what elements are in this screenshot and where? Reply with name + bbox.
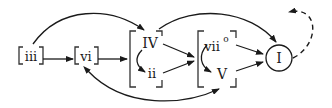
edge-iii-to-IV <box>33 13 144 44</box>
bracket-right-dominant <box>230 31 236 38</box>
edge-IV-to-ii <box>137 50 145 72</box>
harmonic-progression-diagram: iii vi IV ii vii o V I <box>0 0 332 108</box>
group-predominant: IV ii <box>130 31 162 87</box>
label-ii: ii <box>148 66 156 81</box>
edge-IV-to-dominant <box>163 44 194 57</box>
edge-ii-to-dominant <box>163 61 194 73</box>
label-vi: vi <box>79 49 92 64</box>
group-dominant: vii o V <box>198 31 236 87</box>
bracket-right-dominant-bottom <box>230 78 236 87</box>
bracket-right-predominant-bottom <box>156 80 162 87</box>
bracket-left-vi <box>75 47 79 64</box>
label-iii: iii <box>25 49 37 64</box>
bracket-right-iii <box>39 47 43 64</box>
bracket-left-predominant <box>130 31 136 87</box>
node-I: I <box>266 45 292 71</box>
node-vi: vi <box>75 47 98 64</box>
edge-I-dashed-loop <box>289 11 313 58</box>
node-iii: iii <box>19 47 43 64</box>
label-I: I <box>276 50 282 66</box>
bracket-left-iii <box>19 47 23 64</box>
edge-IV-to-I <box>159 14 276 42</box>
label-IV: IV <box>142 35 159 51</box>
edge-vii-to-I <box>236 45 263 54</box>
bracket-right-vi <box>94 47 98 64</box>
label-V: V <box>216 66 228 82</box>
edge-V-to-I <box>236 62 263 71</box>
label-vii-superscript: o <box>223 34 228 44</box>
